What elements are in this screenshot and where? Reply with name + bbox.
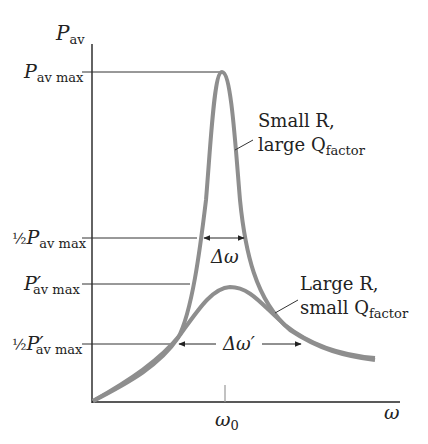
small-q-label: small Qfactor [300,297,409,321]
pmax-prime-label: P′av max [23,272,80,297]
resonance-diagram: Pav Pav max ½Pav max P′av max ½P′av max … [0,0,428,444]
large-r-label: Large R, [300,273,378,294]
small-r-label: Small R, [258,110,335,131]
half-pmax-label: ½Pav max [12,226,87,251]
leader-small-r [235,140,253,150]
delta-omega-label: Δω [210,246,239,267]
y-axis-label: Pav [55,21,85,47]
pmax-label: Pav max [23,60,84,85]
x-axis-label: ω [384,401,400,423]
omega0-label: ω0 [215,408,239,433]
large-q-label: large Qfactor [258,134,366,158]
delta-omega-prime-label: Δω′ [222,333,255,354]
leader-large-r [275,300,298,313]
half-pmax-prime-label: ½P′av max [12,332,83,357]
